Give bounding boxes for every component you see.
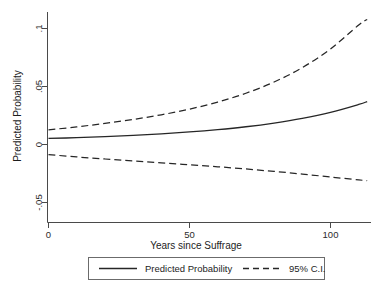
ci-lower-curve [49, 155, 368, 181]
y-tick-label-3: -.05 [33, 194, 44, 210]
legend-label-confidence-interval: 95% C.I. [289, 263, 325, 274]
y-tick-label-0: .1 [33, 25, 44, 33]
predicted-probability-curve [49, 102, 368, 139]
chart-canvas: .1 .05 0 -.05 Predicted Probability 0 50… [0, 0, 381, 286]
x-tick-label-0: 0 [46, 229, 51, 240]
legend-label-predicted-probability: Predicted Probability [145, 263, 232, 274]
x-axis-title: Years since Suffrage [150, 240, 242, 251]
y-tick-label-2: 0 [33, 142, 44, 147]
x-tick-label-2: 100 [323, 229, 339, 240]
x-tick-label-1: 50 [184, 229, 195, 240]
chart-figure: .1 .05 0 -.05 Predicted Probability 0 50… [0, 0, 381, 286]
ci-upper-curve [49, 19, 368, 129]
y-axis-title: Predicted Probability [12, 70, 23, 162]
y-tick-label-1: .05 [33, 80, 44, 93]
